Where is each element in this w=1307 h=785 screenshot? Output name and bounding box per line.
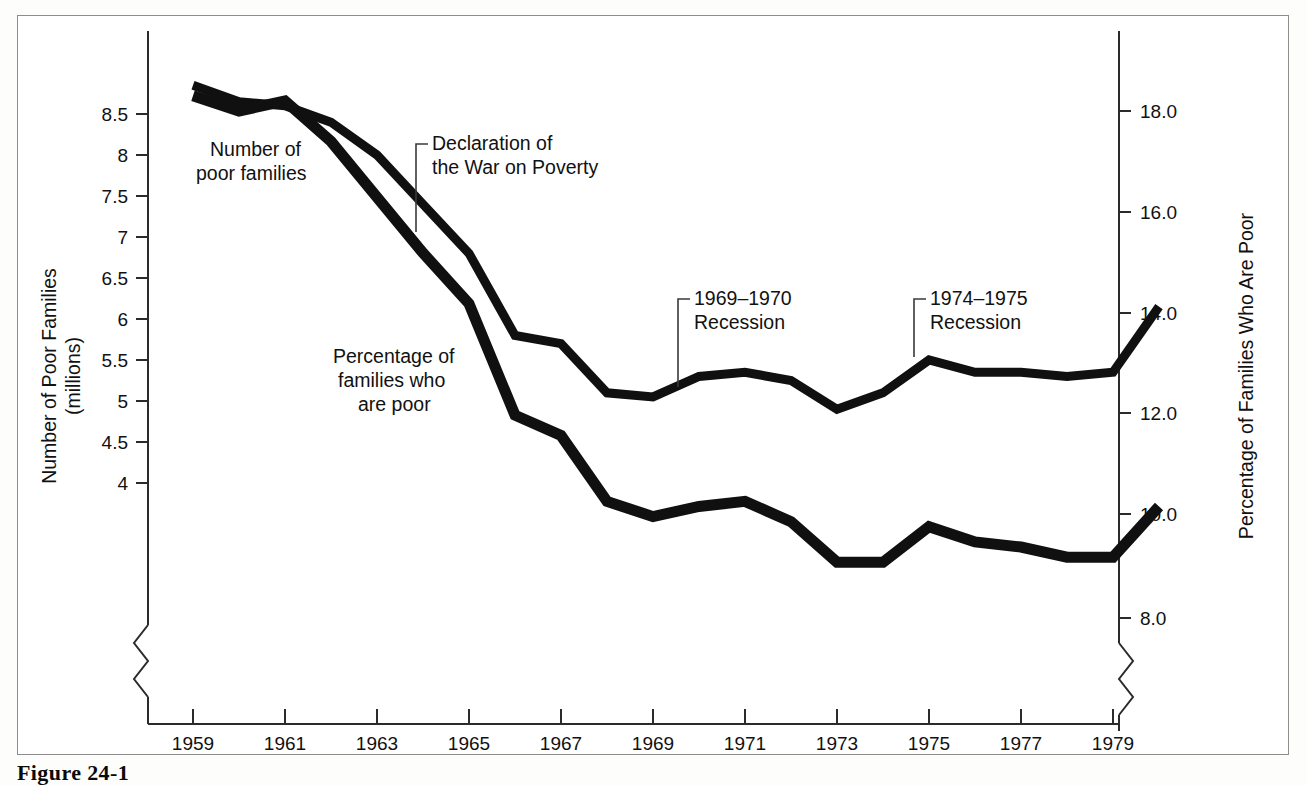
- recession-1974-leader-line: [914, 299, 926, 357]
- left-tick-label-5: 5: [117, 391, 128, 412]
- series-label-number-of-poor-families: Number of poor families: [196, 138, 307, 184]
- figure-frame: 8.5 8 7.5 7 6.5 6 5.5 5 4.5 4 Number of …: [17, 15, 1289, 755]
- left-axis: 8.5 8 7.5 7 6.5 6 5.5 5 4.5 4 Number of …: [38, 31, 148, 724]
- x-tick-label-1973: 1973: [816, 733, 858, 754]
- figure-caption: Figure 24-1: [17, 760, 129, 785]
- right-axis-break-zigzag: [1119, 643, 1133, 715]
- left-tick-label-4.5: 4.5: [102, 432, 128, 453]
- annotation-war-on-poverty: Declaration of the War on Poverty: [416, 132, 598, 232]
- right-tick-label-8.0: 8.0: [1140, 608, 1166, 629]
- x-tick-label-1963: 1963: [356, 733, 398, 754]
- left-tick-label-6: 6: [117, 309, 128, 330]
- series-label-percentage-line3: are poor: [358, 393, 431, 415]
- right-axis: 18.0 16.0 14.0 12.0 10.0 8.0 Percentage …: [1119, 31, 1257, 731]
- left-tick-label-7.5: 7.5: [102, 186, 128, 207]
- annotation-recession-1974-1975: 1974–1975 Recession: [914, 287, 1028, 357]
- poverty-line-chart: 8.5 8 7.5 7 6.5 6 5.5 5 4.5 4 Number of …: [18, 16, 1290, 756]
- left-tick-label-8.5: 8.5: [102, 104, 128, 125]
- right-tick-label-16.0: 16.0: [1140, 202, 1177, 223]
- recession-1974-line2: Recession: [930, 311, 1021, 333]
- left-axis-title-line1: Number of Poor Families: [38, 268, 60, 484]
- war-on-poverty-line1: Declaration of: [432, 132, 553, 154]
- x-tick-label-1961: 1961: [264, 733, 306, 754]
- series-label-percentage-poor: Percentage of families who are poor: [333, 345, 455, 415]
- x-tick-label-1977: 1977: [1000, 733, 1042, 754]
- right-axis-title: Percentage of Families Who Are Poor: [1235, 212, 1257, 539]
- x-tick-label-1967: 1967: [540, 733, 582, 754]
- left-tick-label-5.5: 5.5: [102, 350, 128, 371]
- left-tick-label-4: 4: [117, 473, 128, 494]
- series-label-poor-families-line1: Number of: [210, 138, 302, 160]
- x-axis: 1959 1961 1963 1965 1967 1969 1971 1973 …: [148, 709, 1134, 754]
- figure-page: 8.5 8 7.5 7 6.5 6 5.5 5 4.5 4 Number of …: [0, 0, 1307, 785]
- x-tick-label-1975: 1975: [908, 733, 950, 754]
- left-axis-break-zigzag: [134, 625, 148, 697]
- right-tick-label-18.0: 18.0: [1140, 101, 1177, 122]
- left-tick-label-7: 7: [117, 227, 128, 248]
- x-tick-label-1959: 1959: [172, 733, 214, 754]
- recession-1969-leader-line: [678, 299, 690, 387]
- left-axis-title-line2: (millions): [62, 337, 84, 415]
- x-tick-label-1979: 1979: [1092, 733, 1134, 754]
- war-on-poverty-leader-line: [416, 144, 428, 232]
- recession-1974-line1: 1974–1975: [930, 287, 1028, 309]
- recession-1969-line1: 1969–1970: [694, 287, 792, 309]
- series-label-poor-families-line2: poor families: [196, 162, 307, 184]
- series-label-percentage-line2: families who: [338, 369, 445, 391]
- left-tick-label-8: 8: [117, 145, 128, 166]
- x-tick-label-1969: 1969: [632, 733, 674, 754]
- war-on-poverty-line2: the War on Poverty: [432, 156, 598, 178]
- series-label-percentage-line1: Percentage of: [333, 345, 455, 367]
- left-tick-label-6.5: 6.5: [102, 268, 128, 289]
- x-tick-label-1971: 1971: [724, 733, 766, 754]
- right-tick-label-12.0: 12.0: [1140, 403, 1177, 424]
- recession-1969-line2: Recession: [694, 311, 785, 333]
- x-tick-label-1965: 1965: [448, 733, 490, 754]
